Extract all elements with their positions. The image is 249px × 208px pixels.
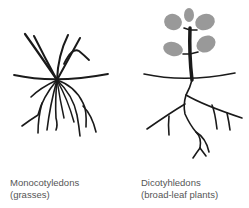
fibrous-root-grass-icon — [14, 34, 108, 136]
monocot-subtitle: (grasses) — [10, 189, 79, 201]
dicot-title: Dicotyhledons — [141, 177, 218, 189]
taproot-broadleaf-plant-icon — [144, 8, 242, 158]
monocot-title: Monocotyledons — [10, 177, 79, 189]
dicot-caption: Dicotyhledons (broad-leaf plants) — [141, 177, 218, 201]
monocot-caption: Monocotyledons (grasses) — [10, 177, 79, 201]
ground-line — [144, 73, 235, 78]
ground-line — [14, 74, 108, 79]
dicot-subtitle: (broad-leaf plants) — [141, 189, 218, 201]
